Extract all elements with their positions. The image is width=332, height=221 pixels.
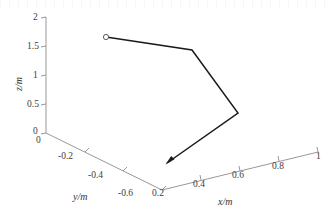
y-tick-label-neg-0-2: -0.2 xyxy=(58,152,73,162)
x-tick-label-0-6: 0.6 xyxy=(232,171,244,181)
x-tick-label-0-2: 0.2 xyxy=(152,189,164,199)
x-axis-title: x/m xyxy=(218,197,232,207)
y-tick-label-0: 0 xyxy=(36,136,41,146)
z-axis-title: z/m xyxy=(14,77,24,91)
z-tick-label-2: 2 xyxy=(33,13,38,23)
x-axis-ticks xyxy=(200,147,318,180)
trajectory-start-marker-icon xyxy=(103,34,108,39)
x-tick-label-0-4: 0.4 xyxy=(193,180,205,190)
trajectory-line xyxy=(106,37,238,163)
z-tick-label-1-5: 1.5 xyxy=(27,42,39,52)
figure-3d-plot: 2 1.5 1 0.5 0 0 -0.2 -0.4 -0.6 0.2 0.4 0… xyxy=(0,0,332,221)
z-tick-label-0-5: 0.5 xyxy=(27,100,39,110)
y-axis-title: y/m xyxy=(73,192,87,202)
x-tick-label-0-8: 0.8 xyxy=(272,162,284,172)
x-tick-label-1: 1 xyxy=(316,152,321,162)
z-axis-ticks xyxy=(41,17,46,134)
trajectory-end-arrow-icon xyxy=(166,156,175,165)
y-tick-label-neg-0-6: -0.6 xyxy=(118,189,133,199)
y-axis-ticks xyxy=(85,148,166,190)
plot-canvas xyxy=(0,0,332,221)
z-tick-label-1: 1 xyxy=(33,71,38,81)
y-tick-label-neg-0-4: -0.4 xyxy=(88,171,103,181)
y-axis-line xyxy=(46,133,162,190)
